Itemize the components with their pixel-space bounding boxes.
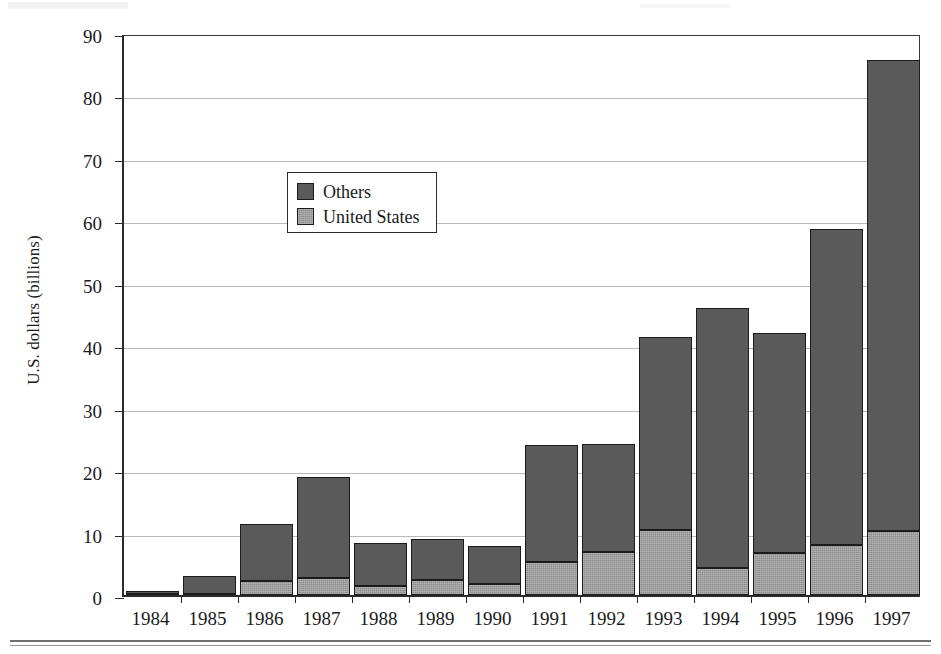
bar-segment-others [867,60,920,530]
bar-segment-others [411,539,464,580]
bar [240,524,293,595]
x-axis-tick-label: 1996 [806,608,863,630]
bar [696,308,749,595]
bar-segment-others [240,524,293,581]
x-axis-tick-label: 1991 [521,608,578,630]
chart-legend: Others United States [287,172,437,233]
legend-item-others: Others [297,179,436,204]
scan-artifact [8,2,128,9]
bar [810,229,863,595]
x-axis-tick-label: 1984 [122,608,179,630]
bar [183,576,236,595]
bar [411,539,464,595]
x-axis-tick [181,595,182,603]
x-axis-tick-label: 1986 [236,608,293,630]
y-axis-tick-label: 30 [83,401,102,423]
figure: U.S. dollars (billions) 0102030405060708… [0,0,941,654]
bar-segment-united-states [582,552,635,595]
y-axis-tick: 10 [115,536,124,537]
y-axis-tick-label: 70 [83,151,102,173]
gridline [124,161,919,162]
y-axis-tick-label: 60 [83,213,102,235]
bar-segment-others [753,333,806,553]
x-axis-tick [637,595,638,603]
legend-label-others: Others [323,183,371,201]
y-axis-tick: 20 [115,473,124,474]
bar [867,60,920,595]
bar-segment-united-states [525,562,578,595]
bar-segment-others [297,477,350,578]
bar-segment-united-states [240,581,293,595]
bar [753,333,806,595]
x-axis-tick-label: 1987 [293,608,350,630]
bar-segment-united-states [297,578,350,595]
bar [525,445,578,595]
x-axis-tick-label: 1990 [464,608,521,630]
x-axis-tick [808,595,809,603]
x-axis-tick-label: 1997 [863,608,920,630]
y-axis-tick: 30 [115,411,124,412]
bar-segment-united-states [411,580,464,595]
y-axis-tick-label: 40 [83,338,102,360]
bar-segment-others [639,337,692,530]
legend-swatch-others-icon [297,183,314,200]
bar [468,546,521,595]
plot-area: 0102030405060708090 [122,35,920,597]
x-axis-tick [238,595,239,603]
y-axis-tick: 90 [115,36,124,37]
bar-segment-others [183,576,236,594]
bar-segment-others [582,444,635,552]
gridline [124,286,919,287]
bar [297,477,350,595]
y-axis-tick: 40 [115,348,124,349]
x-axis-tick [409,595,410,603]
bar-segment-united-states [753,553,806,595]
y-axis-tick: 60 [115,223,124,224]
x-axis-tick-label: 1985 [179,608,236,630]
bar-segment-united-states [810,545,863,595]
bar-segment-united-states [468,584,521,595]
y-axis-tick: 70 [115,161,124,162]
bar-segment-others [468,546,521,583]
y-axis-tick-label: 90 [83,26,102,48]
y-axis-tick-label: 10 [83,526,102,548]
y-axis-tick-label: 20 [83,463,102,485]
bar [354,543,407,595]
x-axis-tick [352,595,353,603]
x-axis-tick-label: 1992 [578,608,635,630]
bar-segment-others [126,591,179,594]
y-axis-tick: 0 [115,598,124,599]
bar-segment-others [810,229,863,545]
y-axis-title: U.S. dollars (billions) [24,150,44,470]
footer-rule-bottom [10,645,931,646]
x-axis-tick [295,595,296,603]
x-axis-tick-label: 1989 [407,608,464,630]
bar [639,337,692,595]
x-axis-tick [751,595,752,603]
legend-label-united-states: United States [323,208,420,226]
y-axis-tick-label: 50 [83,276,102,298]
gridline [124,223,919,224]
bar [126,591,179,595]
x-axis-tick [865,595,866,603]
bar-segment-others [354,543,407,586]
bar [582,444,635,595]
footer-rule-top [10,640,931,642]
gridline [124,98,919,99]
legend-swatch-united-states-icon [297,208,314,225]
bar-segment-united-states [639,530,692,595]
x-axis-tick [694,595,695,603]
bar-segment-united-states [867,531,920,595]
x-axis-tick [580,595,581,603]
bar-segment-united-states [354,586,407,595]
scan-artifact [640,4,730,8]
x-axis-tick-label: 1994 [692,608,749,630]
bar-segment-others [696,308,749,568]
y-axis-tick-label: 0 [93,588,103,610]
y-axis-tick: 80 [115,98,124,99]
x-axis-tick-label: 1995 [749,608,806,630]
bar-segment-united-states [696,568,749,595]
y-axis-tick: 50 [115,286,124,287]
x-axis-tick-label: 1988 [350,608,407,630]
legend-item-united-states: United States [297,204,436,229]
